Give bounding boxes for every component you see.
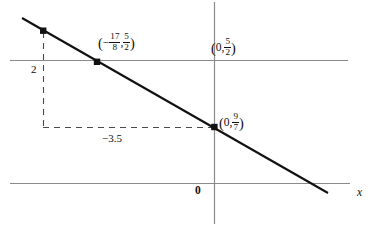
point-y-intercept [211,124,217,130]
paren-close: ) [130,35,135,51]
zero-comma: 0, [224,116,233,128]
fraction-5-2: 52 [123,32,130,52]
paren-close: ) [239,115,244,131]
paren-close: ) [231,40,236,56]
label-y-axis-upper-point: (0,52) [211,38,236,58]
solid-line [22,18,328,193]
zero-comma: 0, [216,41,225,53]
point-intersection [94,59,100,65]
paren-open: ( [98,35,103,51]
label-run-minus-3point5: −3.5 [102,133,122,144]
point-upper-left [40,28,46,34]
figure-canvas: (−178,52) (0,52) (0,97) 2 −3.5 0 x [0,0,379,226]
paren-open: ( [219,115,224,131]
label-x-axis-name: x [357,187,362,199]
paren-open: ( [211,40,216,56]
label-y-intercept-point: (0,97) [219,113,244,133]
label-rise-two: 2 [31,64,37,75]
graph-svg [0,0,379,226]
label-origin: 0 [195,185,201,197]
label-intersection-point: (−178,52) [98,33,135,53]
fraction-17-8: 178 [109,32,120,52]
